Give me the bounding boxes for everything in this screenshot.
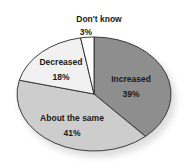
pie-chart-svg: Increased 39% About the same 41% Decreas… xyxy=(0,0,184,167)
label-dont-know-name: Don't know xyxy=(76,14,122,24)
label-dont-know-value: 3% xyxy=(80,27,93,37)
label-increased-value: 39% xyxy=(122,89,139,99)
label-about-the-same-value: 41% xyxy=(63,128,80,138)
label-increased-name: Increased xyxy=(111,74,151,84)
label-decreased-value: 18% xyxy=(52,72,69,82)
pie-chart: Increased 39% About the same 41% Decreas… xyxy=(0,0,184,167)
label-decreased-name: Decreased xyxy=(39,57,82,67)
label-about-the-same-name: About the same xyxy=(40,113,104,123)
